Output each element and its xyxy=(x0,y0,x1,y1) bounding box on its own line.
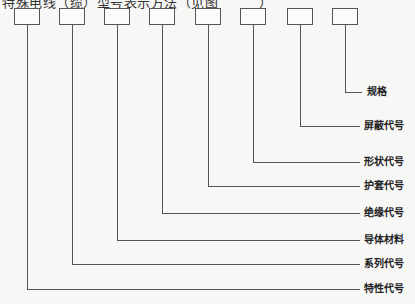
connector-sheath-v xyxy=(208,25,209,187)
label-shield: 屏蔽代号 xyxy=(364,120,404,132)
connector-characteristic-h xyxy=(27,289,360,290)
label-conductor: 导体材料 xyxy=(364,234,404,246)
code-box-conductor xyxy=(104,8,130,25)
connector-insulation-v xyxy=(162,25,163,214)
label-characteristic: 特性代号 xyxy=(364,283,404,295)
connector-spec-h xyxy=(345,92,362,93)
connector-series-h xyxy=(72,264,360,265)
label-series: 系列代号 xyxy=(364,258,404,270)
connector-shape-h xyxy=(253,162,360,163)
connector-insulation-h xyxy=(162,213,360,214)
connector-characteristic-v xyxy=(27,25,28,290)
label-insulation: 绝缘代号 xyxy=(364,207,404,219)
connector-spec-v xyxy=(345,25,346,93)
code-box-sheath xyxy=(195,8,221,25)
label-spec: 规格 xyxy=(367,86,387,98)
code-box-spec xyxy=(332,8,358,25)
code-box-shield xyxy=(287,8,313,25)
connector-shield-h xyxy=(300,126,360,127)
figure-caption: 特殊电线（缆）型号表示方法（见图 ） xyxy=(2,0,272,11)
connector-shape-v xyxy=(253,25,254,163)
label-sheath: 护套代号 xyxy=(364,180,404,192)
connector-shield-v xyxy=(300,25,301,127)
connector-conductor-h xyxy=(117,240,360,241)
code-box-series xyxy=(59,8,85,25)
label-shape: 形状代号 xyxy=(364,156,404,168)
code-box-characteristic xyxy=(14,8,40,25)
code-box-insulation xyxy=(149,8,175,25)
code-box-shape xyxy=(240,8,266,25)
connector-series-v xyxy=(72,25,73,265)
connector-conductor-v xyxy=(117,25,118,241)
connector-sheath-h xyxy=(208,186,360,187)
